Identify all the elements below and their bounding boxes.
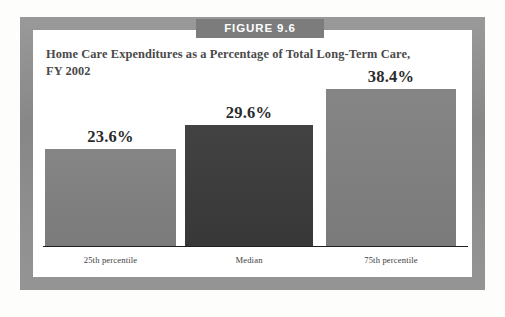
bar-group-75th-percentile: 38.4% 75th percentile xyxy=(326,30,456,277)
bar-chart-plot-area: 23.6% 25th percentile 29.6% Median 38.4%… xyxy=(33,30,472,277)
bar-value-label: 38.4% xyxy=(326,67,456,87)
bar-column: 23.6% 25th percentile xyxy=(45,30,176,277)
bar-category-label: Median xyxy=(173,255,325,265)
bar-column: 38.4% 75th percentile xyxy=(326,30,456,277)
scanned-page: FIGURE 9.6 Home Care Expenditures as a P… xyxy=(0,0,505,317)
bar-rect xyxy=(45,149,176,246)
bar-group-25th-percentile: 23.6% 25th percentile xyxy=(45,30,176,277)
bar-rect xyxy=(185,125,313,246)
bar-category-label: 25th percentile xyxy=(33,255,188,265)
axis-baseline xyxy=(43,246,468,247)
figure-number-badge: FIGURE 9.6 xyxy=(196,19,324,38)
bar-rect xyxy=(326,89,456,246)
bar-value-label: 29.6% xyxy=(185,103,313,123)
bar-column: 29.6% Median xyxy=(185,30,313,277)
bar-group-median: 29.6% Median xyxy=(185,30,313,277)
bar-value-label: 23.6% xyxy=(45,127,176,147)
bar-category-label: 75th percentile xyxy=(314,255,468,265)
